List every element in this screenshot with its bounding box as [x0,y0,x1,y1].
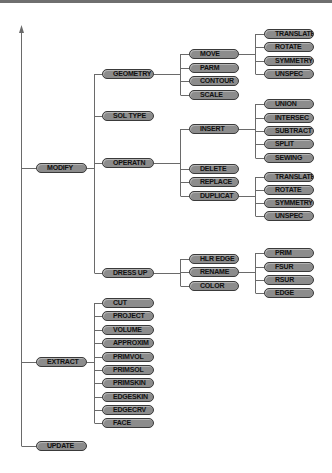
node-edge: EDGE [264,288,314,298]
node-sewing: SEWING [264,153,314,163]
node-translate: TRANSLATE [264,172,314,182]
node-rename: RENAME [189,267,239,277]
node-move: MOVE [189,49,239,59]
node-rotate: ROTATE [264,42,314,52]
node-translate: TRANSLATE [264,29,314,39]
node-symmetry: SYMMETRY [264,198,314,208]
node-intersec: INTERSEC [264,113,314,123]
arrow-up-icon [19,25,24,33]
node-hlr-edge: HLR EDGE [189,254,239,264]
node-operatn: OPERATN [102,158,154,168]
node-edgecrv: EDGECRV [102,405,154,415]
node-primskin: PRIMSKIN [102,378,154,388]
node-extract: EXTRACT [36,357,87,367]
node-prim: PRIM [264,248,314,258]
node-rsur: RSUR [264,275,314,285]
node-project: PROJECT [102,311,154,321]
node-union: UNION [264,99,314,109]
node-color: COLOR [189,281,239,291]
node-subtract: SUBTRACT [264,126,314,136]
node-approxim: APPROXIM [102,338,154,348]
node-fsur: FSUR [264,262,314,272]
node-primvol: PRIMVOL [102,352,154,362]
node-symmetry: SYMMETRY [264,56,314,66]
node-delete: DELETE [189,164,239,174]
node-cut: CUT [102,298,154,308]
node-modify: MODIFY [36,163,87,173]
node-unspec: UNSPEC [264,69,314,79]
node-edgeskin: EDGESKIN [102,392,154,402]
node-update: UPDATE [36,441,87,451]
node-insert: INSERT [189,124,239,134]
node-rotate: ROTATE [264,185,314,195]
node-unspec: UNSPEC [264,211,314,221]
node-sol-type: SOL TYPE [102,111,154,121]
node-contour: CONTOUR [189,76,239,86]
node-primsol: PRIMSOL [102,365,154,375]
node-scale: SCALE [189,90,239,100]
node-volume: VOLUME [102,325,154,335]
node-replace: REPLACE [189,177,239,187]
node-face: FACE [102,418,154,428]
node-split: SPLIT [264,139,314,149]
node-duplicat: DUPLICAT [189,191,239,201]
node-dress-up: DRESS UP [102,268,154,278]
node-geometry: GEOMETRY [102,69,154,79]
node-parm: PARM [189,63,239,73]
